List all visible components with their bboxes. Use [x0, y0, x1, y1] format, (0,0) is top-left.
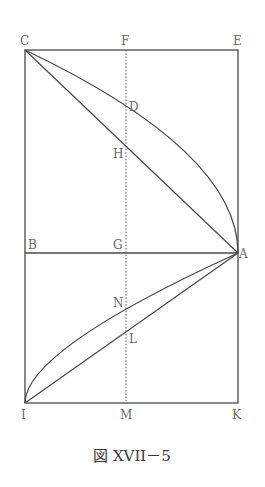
label-D: D: [129, 100, 139, 114]
label-F: F: [121, 34, 129, 48]
line-IA: [25, 253, 238, 403]
label-I: I: [21, 408, 26, 422]
label-N: N: [113, 296, 124, 310]
label-L: L: [129, 332, 137, 346]
label-A: A: [238, 247, 248, 261]
line-CA: [25, 50, 238, 253]
label-G: G: [113, 238, 123, 252]
label-H: H: [113, 147, 123, 161]
label-E: E: [233, 34, 242, 48]
figure-caption: 図 XVII－5: [93, 447, 171, 465]
label-K: K: [232, 408, 242, 422]
label-B: B: [28, 238, 37, 252]
geometry-figure: C F E D H B G A N L I M K 図 XVII－5: [0, 0, 265, 487]
label-M: M: [120, 408, 132, 422]
label-C: C: [20, 34, 29, 48]
